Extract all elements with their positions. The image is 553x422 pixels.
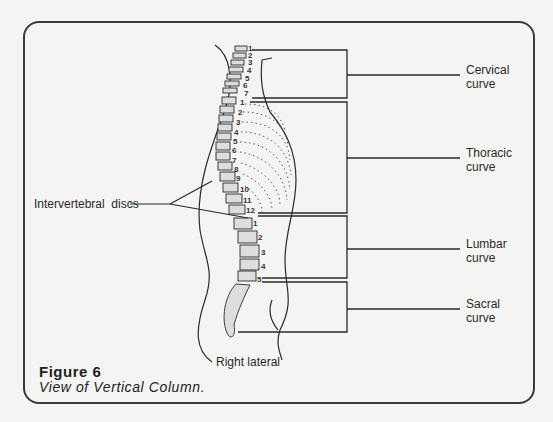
l1-label: 1 xyxy=(253,219,257,228)
sacral-curve-label: Sacral curve xyxy=(466,297,500,325)
sacral-label-line1: Sacral xyxy=(466,297,500,311)
cervical-bracket xyxy=(252,50,347,98)
t3-label: 3 xyxy=(236,118,240,127)
t12-label: 12 xyxy=(246,206,255,215)
lumbar-bracket xyxy=(258,216,347,278)
sacral-label-line2: curve xyxy=(466,311,500,325)
l3-label: 3 xyxy=(261,248,265,257)
t6-label: 6 xyxy=(232,146,236,155)
l5-label: 5 xyxy=(257,275,261,284)
lumbar-label-line1: Lumbar xyxy=(466,237,507,251)
t1-label: 1 xyxy=(240,98,244,107)
lumbar-label-line2: curve xyxy=(466,251,507,265)
sacral-bracket xyxy=(238,282,347,332)
thoracic-label-line2: curve xyxy=(466,160,512,174)
l4-label: 4 xyxy=(261,262,265,271)
t7-label: 7 xyxy=(232,156,236,165)
t5-label: 5 xyxy=(233,137,237,146)
cervical-label-line1: Cervical xyxy=(466,63,509,77)
l2-label: 2 xyxy=(258,233,262,242)
thoracic-curve-label: Thoracic curve xyxy=(466,146,512,174)
cervical-curve-label: Cervical curve xyxy=(466,63,509,91)
curve-brackets xyxy=(238,50,460,332)
figure-title: Figure 6 xyxy=(39,363,101,380)
front-outline xyxy=(261,58,296,360)
lumbar-curve-label: Lumbar curve xyxy=(466,237,507,265)
t2-label: 2 xyxy=(238,108,242,117)
t8-label: 8 xyxy=(234,165,238,174)
intervertebral-discs-label: Intervertebral discs xyxy=(34,197,139,211)
cervical-label-line2: curve xyxy=(466,77,509,91)
t10-label: 10 xyxy=(240,185,249,194)
c7-label: 7 xyxy=(244,89,248,98)
thoracic-label-line1: Thoracic xyxy=(466,146,512,160)
view-label: Right lateral xyxy=(216,355,280,369)
t11-label: 11 xyxy=(243,196,251,205)
thoracic-bracket xyxy=(250,102,347,213)
t9-label: 9 xyxy=(236,174,240,183)
figure-caption: View of Vertical Column. xyxy=(39,379,205,395)
t4-label: 4 xyxy=(234,128,238,137)
